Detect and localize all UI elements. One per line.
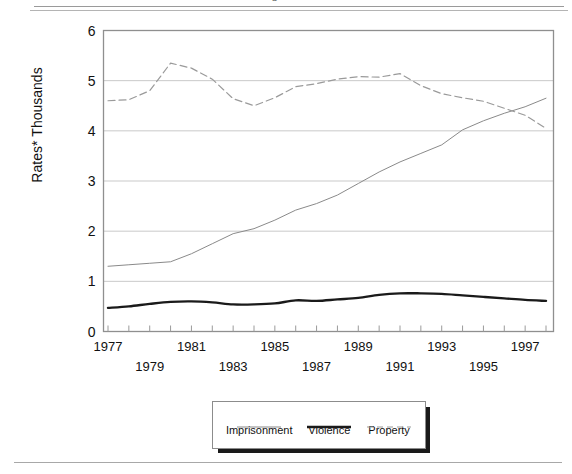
x-tick-label: 1979: [127, 360, 173, 374]
x-tick-label: 1983: [210, 360, 256, 374]
series-line-violence: [108, 293, 546, 308]
y-tick-label: 6: [70, 24, 96, 38]
chart-legend: ImprisonmentViolenceProperty: [212, 401, 426, 449]
y-tick-label: 0: [70, 325, 96, 339]
y-tick-label: 5: [70, 74, 96, 88]
x-tick-label: 1995: [460, 360, 506, 374]
y-axis-title-line1: Rates*: [29, 141, 45, 183]
series-line-property: [108, 63, 546, 128]
x-axis-ticks: [108, 326, 546, 332]
gridlines: [104, 81, 554, 282]
y-tick-label: 3: [70, 174, 96, 188]
y-tick-label: 1: [70, 274, 96, 288]
x-tick-label: 1981: [168, 340, 214, 354]
x-tick-label: 1989: [335, 340, 381, 354]
y-tick-label: 2: [70, 224, 96, 238]
series-layer: [108, 63, 546, 308]
bottom-divider: [14, 462, 562, 463]
x-tick-label: 1987: [294, 360, 340, 374]
legend-items: ImprisonmentViolenceProperty: [213, 402, 425, 448]
chart-page: p 0123456 197719791981198319851987198919…: [0, 0, 572, 474]
y-axis-title: Rates* Thousands: [17, 50, 57, 200]
legend-item: Property: [366, 415, 412, 436]
x-tick-label: 1997: [502, 340, 548, 354]
legend-swatch-icon: [236, 415, 282, 419]
x-tick-label: 1991: [377, 360, 423, 374]
legend-item: Imprisonment: [226, 415, 293, 436]
x-tick-label: 1985: [252, 340, 298, 354]
x-tick-label: 1977: [85, 340, 131, 354]
legend-swatch-icon: [306, 415, 352, 419]
y-tick-label: 4: [70, 124, 96, 138]
legend-swatch-icon: [366, 415, 412, 419]
x-tick-label: 1993: [419, 340, 465, 354]
legend-item: Violence: [306, 415, 352, 436]
y-axis-title-line2: Thousands: [29, 67, 45, 136]
series-line-imprisonment: [108, 98, 546, 266]
